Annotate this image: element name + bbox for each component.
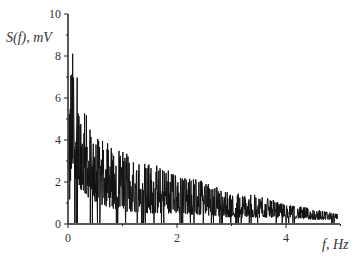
y-tick-label: 8 <box>55 49 61 63</box>
y-tick-label: 10 <box>49 7 61 21</box>
x-axis-title: f, Hz <box>322 237 349 252</box>
y-tick-label: 4 <box>55 133 61 147</box>
spectrum-line <box>69 54 338 223</box>
x-tick-label: 0 <box>65 231 71 245</box>
y-tick-label: 0 <box>55 217 61 231</box>
y-axis-title: S(f), mV <box>6 30 53 46</box>
x-ticks: 024 <box>65 224 341 245</box>
spectrum-chart: 0246810 024 S(f), mV f, Hz <box>0 0 364 261</box>
spectrum-path <box>69 54 338 223</box>
x-tick-label: 2 <box>174 231 180 245</box>
y-tick-label: 6 <box>55 91 61 105</box>
x-tick-label: 4 <box>283 231 289 245</box>
y-tick-label: 2 <box>55 175 61 189</box>
